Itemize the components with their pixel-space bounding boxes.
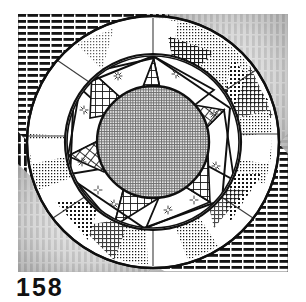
figure-number: 158 (16, 275, 64, 300)
center-circle (97, 86, 209, 198)
mandala-diagram (18, 14, 288, 272)
figure-page: 158 (0, 0, 306, 302)
figure-frame (18, 14, 288, 272)
figure-caption: 158 (16, 272, 136, 302)
